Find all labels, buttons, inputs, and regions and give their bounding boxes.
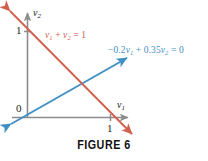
line-blue bbox=[11, 58, 127, 124]
y-axis-label: v2 bbox=[33, 8, 41, 18]
red-line-equation-label: v1 + v2 = 1 bbox=[45, 31, 86, 41]
figure-caption: FIGURE 6 bbox=[15, 138, 194, 152]
figure-container: v2 v1 1 1 0 v1 + v2 = 1 −0.2v1 + 0.35v2 … bbox=[0, 0, 208, 161]
x-tick-label-1: 1 bbox=[107, 123, 113, 134]
y-tick-label-1: 1 bbox=[16, 25, 22, 36]
origin-label: 0 bbox=[16, 103, 22, 114]
blue-line-equation-label: −0.2v1 + 0.35v2 = 0 bbox=[108, 46, 184, 56]
x-axis-label: v1 bbox=[117, 100, 125, 110]
plot-canvas bbox=[0, 0, 208, 161]
